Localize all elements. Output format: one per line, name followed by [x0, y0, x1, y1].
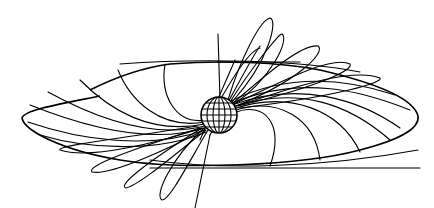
magnetosphere-diagram [0, 0, 434, 208]
disk-field-lines-right [231, 81, 410, 166]
lower-lobe-loops [60, 126, 208, 200]
diagram-canvas [0, 0, 434, 208]
planet-globe-icon [201, 97, 237, 133]
